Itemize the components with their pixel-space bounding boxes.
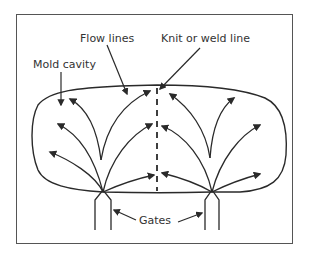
gates-leader-left xyxy=(114,210,136,220)
label-leaders xyxy=(61,45,202,222)
weld-line-leader xyxy=(160,48,200,89)
mold-cavity-outline xyxy=(32,85,286,193)
gates-label: Gates xyxy=(139,215,171,226)
left-gate-flow-lines xyxy=(50,91,154,192)
right-gate xyxy=(205,190,219,230)
right-gate-flow-lines xyxy=(162,94,260,192)
flow-lines-label: Flow lines xyxy=(80,33,134,44)
weld-line-label: Knit or weld line xyxy=(161,33,250,44)
mold-cavity-label: Mold cavity xyxy=(33,59,96,70)
gates-leader-right xyxy=(178,213,202,222)
left-gate xyxy=(95,190,111,230)
